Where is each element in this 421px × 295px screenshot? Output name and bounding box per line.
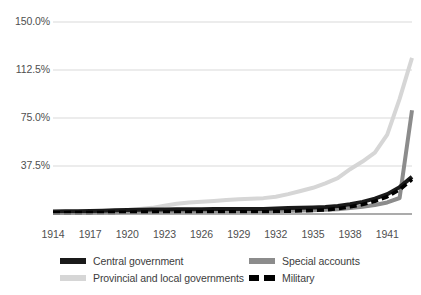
legend-item[interactable]: Central government — [60, 254, 183, 268]
chart-plot-area — [0, 0, 421, 240]
legend-item[interactable]: Provincial and local governments — [60, 271, 244, 285]
gridlines — [53, 22, 412, 166]
x-axis-tick-label: 1920 — [109, 228, 145, 240]
y-axis-tick-label: 37.5% — [2, 160, 50, 171]
x-axis-tick-label: 1941 — [369, 228, 405, 240]
y-axis-tick-label: 75.0% — [2, 112, 50, 123]
y-axis-tick-labels: 150.0%112.5%75.0%37.5% — [0, 0, 50, 240]
series-line — [53, 110, 412, 212]
legend-item[interactable]: Special accounts — [249, 254, 360, 268]
x-axis-tick-label: 1917 — [72, 228, 108, 240]
x-axis-tick-label: 1926 — [184, 228, 220, 240]
line-chart: 150.0%112.5%75.0%37.5% 19141917192019231… — [0, 0, 421, 295]
legend-swatch-icon — [249, 258, 275, 264]
chart-legend: Central governmentSpecial accountsProvin… — [0, 252, 421, 292]
legend-label: Special accounts — [282, 255, 360, 267]
x-axis-tick-label: 1914 — [35, 228, 71, 240]
x-axis-tick-labels: 1914191719201923192619291932193519381941 — [53, 228, 412, 244]
y-axis-tick-label: 112.5% — [2, 64, 50, 75]
x-axis-tick-label: 1929 — [221, 228, 257, 240]
y-axis-tick-label: 150.0% — [2, 16, 50, 27]
x-axis-tick-label: 1935 — [295, 228, 331, 240]
series-line — [53, 58, 412, 212]
legend-label: Provincial and local governments — [93, 272, 244, 284]
series-lines — [53, 58, 412, 213]
legend-swatch-icon — [249, 275, 275, 281]
x-axis-tick-label: 1923 — [146, 228, 182, 240]
legend-item[interactable]: Military — [249, 271, 314, 285]
legend-swatch-icon — [60, 258, 86, 264]
legend-label: Military — [282, 272, 314, 284]
legend-label: Central government — [93, 255, 183, 267]
x-axis-tick-label: 1932 — [258, 228, 294, 240]
x-axis-tick-label: 1938 — [332, 228, 368, 240]
legend-swatch-icon — [60, 275, 86, 281]
